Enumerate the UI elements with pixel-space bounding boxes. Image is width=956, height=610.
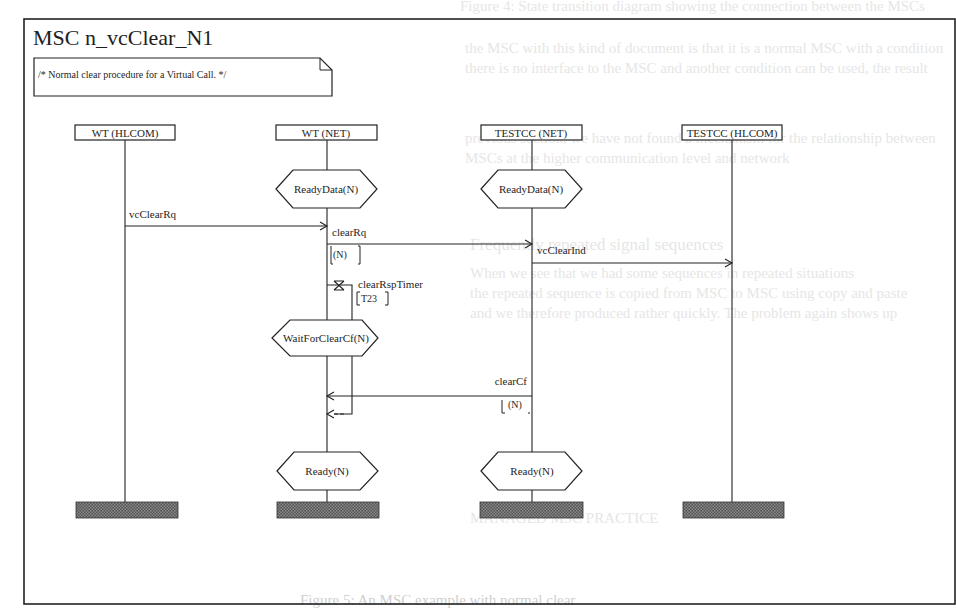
svg-text:clearRq: clearRq <box>332 226 367 238</box>
svg-text:clearRspTimer: clearRspTimer <box>358 278 423 290</box>
svg-text:clearCf: clearCf <box>495 375 528 387</box>
condition-ready-wt-net: Ready(N) <box>277 452 378 490</box>
svg-text:WT (HLCOM): WT (HLCOM) <box>92 127 159 140</box>
instance-testcc-net[interactable]: TESTCC (NET) <box>481 125 582 140</box>
condition-ready-testcc-net: Ready(N) <box>481 452 582 490</box>
comment-text: /* Normal clear procedure for a Virtual … <box>38 69 227 80</box>
instance-end-wt-net <box>277 502 379 518</box>
svg-text:TESTCC (HLCOM): TESTCC (HLCOM) <box>687 127 778 140</box>
svg-text:(N): (N) <box>508 399 522 411</box>
condition-waitforclearcf: WaitForClearCf(N) <box>272 320 378 356</box>
svg-text:Ready(N): Ready(N) <box>305 465 349 478</box>
instance-testcc-hlcom[interactable]: TESTCC (HLCOM) <box>682 125 782 140</box>
svg-text:ReadyData(N): ReadyData(N) <box>294 183 358 196</box>
svg-text:vcClearInd: vcClearInd <box>537 244 586 256</box>
instance-wt-net[interactable]: WT (NET) <box>276 125 377 140</box>
message-clearrq[interactable]: clearRq (N) <box>327 226 532 264</box>
condition-readydata-testcc-net: ReadyData(N) <box>481 170 582 208</box>
msc-title: MSC n_vcClear_N1 <box>33 25 213 50</box>
instance-end-testcc-hlcom <box>683 502 784 518</box>
svg-text:ReadyData(N): ReadyData(N) <box>499 183 563 196</box>
svg-text:WT (NET): WT (NET) <box>302 127 351 140</box>
comment-note: /* Normal clear procedure for a Virtual … <box>34 58 332 96</box>
instance-end-testcc-net <box>480 502 583 518</box>
message-clearcf[interactable]: clearCf (N) <box>327 375 532 413</box>
timer-stop-arrow <box>327 410 344 418</box>
message-vcclearrq[interactable]: vcClearRq <box>125 208 327 230</box>
message-vcclearind[interactable]: vcClearInd <box>532 244 732 267</box>
svg-text:WaitForClearCf(N): WaitForClearCf(N) <box>283 332 369 345</box>
svg-text:Ready(N): Ready(N) <box>510 465 554 478</box>
instance-wt-hlcom[interactable]: WT (HLCOM) <box>75 125 175 140</box>
msc-diagram: MSC n_vcClear_N1 /* Normal clear procedu… <box>0 0 956 610</box>
svg-text:vcClearRq: vcClearRq <box>129 208 177 220</box>
svg-text:T23: T23 <box>361 293 377 304</box>
svg-text:TESTCC (NET): TESTCC (NET) <box>495 127 568 140</box>
condition-readydata-wt-net: ReadyData(N) <box>276 170 377 208</box>
svg-text:(N): (N) <box>333 249 347 261</box>
instance-end-wt-hlcom <box>76 502 178 518</box>
